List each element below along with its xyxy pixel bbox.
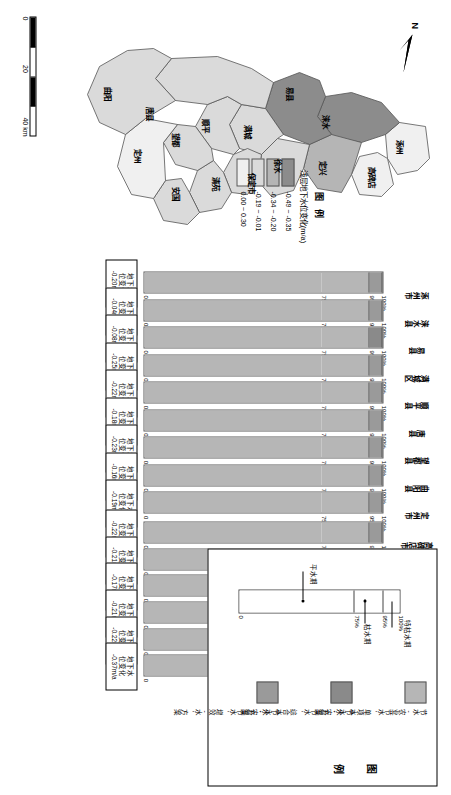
segment-extreme-dry — [369, 382, 382, 402]
segment-normal — [144, 355, 321, 375]
segment-normal — [144, 382, 321, 402]
segment-dry — [321, 300, 369, 320]
segment-normal — [144, 327, 321, 347]
annotation-extreme-dry: 特枯水期 — [402, 619, 412, 647]
map-legend-label: 0.00 ~ 0.30 — [239, 191, 246, 226]
segment-normal — [144, 465, 321, 485]
legend-schematic: 0 75% 95% 100% 平水期 枯水期 特枯水期 — [226, 563, 414, 675]
segment-normal — [144, 272, 321, 292]
scale-tick-0: 0 — [21, 16, 28, 20]
map-legend-subtitle: 浅层地下水位变化(m/a) — [298, 158, 309, 254]
rotated-figure: N 0 20 40 km 图 例 浅层地下水位变化( — [0, 0, 451, 795]
annotation-dry: 枯水期 — [362, 623, 372, 644]
segment-dry — [321, 410, 369, 430]
county-label: 顺平 — [200, 118, 211, 132]
county-label: 易县 — [284, 86, 295, 100]
segment-dry — [321, 272, 369, 292]
segment-dry — [321, 327, 369, 347]
bar-annotation-line: 位变化 — [117, 644, 125, 688]
annotation-normal: 平水期 — [308, 563, 318, 584]
segment-extreme-dry — [369, 437, 382, 457]
map-legend-label: -0.34 ~ -0.20 — [269, 191, 276, 231]
segment-dry — [321, 437, 369, 457]
map-legend-label: -0.49 ~ -0.35 — [284, 191, 291, 231]
segment-normal — [144, 437, 321, 457]
county-label: 高碑店 — [366, 166, 377, 187]
main-legend-swatch — [404, 681, 426, 703]
north-label: N — [409, 22, 419, 29]
segment-extreme-dry — [369, 410, 382, 430]
county-label: 安国 — [170, 186, 181, 200]
county-label: 望都 — [170, 132, 181, 146]
county-label: 定州 — [132, 148, 143, 162]
county-label: 定兴 — [317, 160, 328, 174]
segment-normal — [144, 300, 321, 320]
segment-extreme-dry — [369, 465, 382, 485]
county-label: 曲阳 — [102, 86, 113, 100]
segment-dry — [321, 382, 369, 402]
county-label: 清苑 — [210, 176, 221, 190]
county-label: 涿州 — [394, 139, 405, 153]
main-legend-item: 节水-农业节水'增效-水'方案 — [128, 681, 278, 714]
main-legend-title: 图 例 — [327, 760, 376, 775]
bar-annotation-line: -0.37m/a — [109, 644, 117, 688]
segment-normal — [144, 492, 321, 512]
segment-normal — [144, 410, 321, 430]
segment-extreme-dry — [369, 300, 382, 320]
schematic-tick-1: 75% — [353, 615, 359, 627]
map-legend-label: -0.19 ~ -0.01 — [254, 191, 261, 231]
main-legend-label: 节水-农业节水'增效-水'方案 — [128, 707, 278, 714]
segment-dry — [321, 355, 369, 375]
segment-extreme-dry — [369, 272, 382, 292]
north-arrow-icon: N — [395, 20, 425, 76]
figure-canvas: N 0 20 40 km 图 例 浅层地下水位变化( — [0, 0, 451, 795]
bar-column-middle: 涿州市075%95%100%地下水位变化-0.20m/a涞水县075%95%10… — [5, 262, 445, 510]
county-label: 保定市 — [246, 172, 257, 193]
stacked-bar[interactable] — [143, 491, 383, 513]
schematic-bar — [238, 589, 400, 613]
county-map[interactable] — [7, 8, 443, 258]
segment-dry — [321, 492, 369, 512]
county-label: 唐县 — [144, 106, 155, 120]
segment-dry — [321, 465, 369, 485]
scale-tick-1: 20 — [21, 65, 28, 73]
segment-extreme-dry — [369, 355, 382, 375]
scale-tick-2: 40 km — [21, 117, 28, 136]
main-legend-swatch — [330, 681, 352, 703]
schematic-tick-0: 0 — [237, 615, 243, 618]
segment-extreme-dry — [369, 492, 382, 512]
map-panel: N 0 20 40 km 图 例 浅层地下水位变化( — [7, 8, 443, 258]
scale-bar: 0 20 40 km — [21, 16, 36, 136]
county-label: 涞水 — [320, 114, 331, 128]
segment-extreme-dry — [369, 327, 382, 347]
county-label: 徐水 — [272, 158, 283, 172]
main-legend-swatch — [256, 681, 278, 703]
county-label: 满城 — [242, 124, 253, 138]
schematic-tick-2: 95% — [381, 615, 387, 627]
main-legend-box: 图 例 0 75% 95% 100% 平水期 枯水期 — [207, 548, 437, 786]
